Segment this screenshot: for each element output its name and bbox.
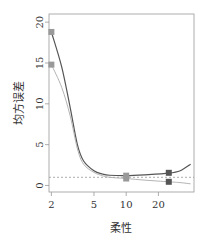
series-layer	[48, 29, 190, 185]
x-axis: 251020	[48, 192, 165, 210]
train-mse-marker	[123, 176, 129, 182]
y-tick-label: 0	[34, 182, 45, 188]
x-tick-label: 20	[152, 199, 165, 210]
train-mse-marker	[48, 62, 54, 68]
y-tick-label: 10	[34, 97, 45, 110]
plot-frame	[49, 14, 194, 192]
train-mse-marker	[166, 179, 172, 185]
test-mse-line	[51, 32, 190, 176]
x-axis-title: 柔性	[110, 221, 132, 235]
y-axis-title: 均方误差	[12, 81, 26, 125]
test-mse-marker	[48, 29, 54, 35]
train-mse-line	[51, 65, 190, 184]
x-tick-label: 10	[120, 199, 133, 210]
x-tick-label: 5	[91, 199, 97, 210]
y-tick-label: 5	[34, 141, 45, 147]
y-tick-label: 15	[34, 57, 45, 70]
chart: 05101520 251020 均方误差 柔性	[0, 0, 205, 244]
x-tick-label: 2	[48, 199, 54, 210]
y-axis: 05101520	[34, 16, 50, 189]
y-tick-label: 20	[34, 16, 45, 29]
test-mse-marker	[166, 170, 172, 176]
